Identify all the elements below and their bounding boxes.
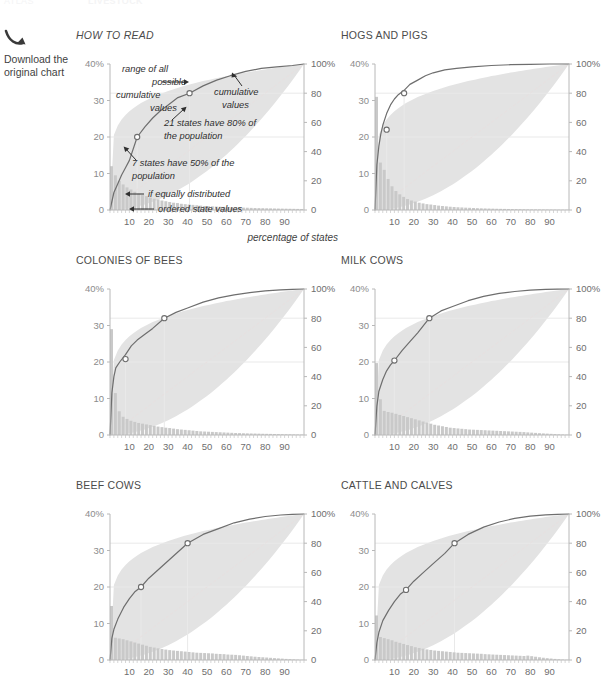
svg-text:70: 70: [506, 216, 517, 227]
chart-title: HOGS AND PIGS: [341, 28, 603, 42]
svg-text:60: 60: [576, 342, 587, 353]
svg-text:70: 70: [506, 441, 517, 452]
svg-text:10: 10: [124, 216, 135, 227]
svg-text:80: 80: [525, 216, 536, 227]
svg-text:ordered state values: ordered state values: [158, 204, 243, 214]
svg-text:90: 90: [544, 216, 555, 227]
svg-text:30: 30: [93, 95, 104, 106]
svg-text:80: 80: [260, 441, 271, 452]
chart-hogs-and-pigs: HOGS AND PIGS 40%3020100100%806040200102…: [341, 28, 603, 250]
svg-text:10: 10: [389, 216, 400, 227]
svg-text:20: 20: [576, 400, 587, 411]
chart-title: CATTLE AND CALVES: [341, 478, 603, 492]
svg-text:20: 20: [358, 131, 369, 142]
svg-text:30: 30: [93, 320, 104, 331]
svg-text:30: 30: [358, 95, 369, 106]
chart-beef-cows: BEEF COWS 40%3020100100%8060402001020304…: [76, 478, 344, 700]
svg-text:90: 90: [279, 216, 290, 227]
svg-text:population: population: [131, 171, 175, 181]
svg-text:20: 20: [576, 175, 587, 186]
svg-text:80: 80: [260, 216, 271, 227]
svg-text:80: 80: [311, 313, 322, 324]
svg-text:30: 30: [428, 666, 439, 677]
svg-text:100%: 100%: [311, 283, 336, 294]
svg-text:90: 90: [544, 666, 555, 677]
svg-text:40%: 40%: [85, 58, 105, 69]
svg-text:0: 0: [576, 429, 581, 440]
svg-text:0: 0: [99, 204, 104, 215]
chart-title: COLONIES OF BEES: [76, 253, 344, 267]
svg-text:10: 10: [93, 168, 104, 179]
plot-area: 40%3020100100%80604020010203040506070809…: [341, 42, 603, 242]
svg-text:40: 40: [311, 596, 322, 607]
svg-text:40%: 40%: [350, 283, 370, 294]
svg-text:20: 20: [93, 581, 104, 592]
svg-text:40%: 40%: [85, 508, 105, 519]
svg-text:60: 60: [311, 117, 322, 128]
svg-text:80: 80: [311, 88, 322, 99]
svg-text:40: 40: [447, 216, 458, 227]
svg-text:40%: 40%: [85, 283, 105, 294]
svg-text:0: 0: [364, 429, 369, 440]
svg-text:70: 70: [241, 666, 252, 677]
svg-text:50: 50: [202, 666, 213, 677]
plot-area: 40%3020100100%80604020010203040506070809…: [76, 267, 344, 467]
svg-text:80: 80: [525, 441, 536, 452]
svg-text:30: 30: [358, 320, 369, 331]
svg-text:0: 0: [364, 204, 369, 215]
chart-cattle-and-calves: CATTLE AND CALVES 40%3020100100%80604020…: [341, 478, 603, 700]
svg-text:60: 60: [221, 666, 232, 677]
svg-text:60: 60: [221, 441, 232, 452]
svg-text:cumulative: cumulative: [214, 87, 258, 97]
svg-text:60: 60: [311, 342, 322, 353]
svg-text:20: 20: [144, 666, 155, 677]
svg-text:40%: 40%: [350, 508, 370, 519]
svg-text:80: 80: [260, 666, 271, 677]
svg-text:30: 30: [428, 441, 439, 452]
chart-milk-cows: MILK COWS 40%3020100100%8060402001020304…: [341, 253, 603, 475]
svg-text:20: 20: [409, 216, 420, 227]
svg-text:10: 10: [358, 393, 369, 404]
svg-text:20: 20: [93, 356, 104, 367]
svg-text:50: 50: [202, 216, 213, 227]
svg-text:10: 10: [124, 441, 135, 452]
header-left-fragment: ATLAS: [4, 0, 34, 6]
download-original-chart-link[interactable]: Download the original chart: [4, 28, 70, 79]
svg-text:0: 0: [311, 204, 316, 215]
svg-text:40%: 40%: [350, 58, 370, 69]
header-center-fragment: LIVESTOCK: [88, 0, 143, 6]
svg-text:40: 40: [311, 146, 322, 157]
svg-text:range of all: range of all: [122, 64, 169, 74]
svg-text:100%: 100%: [576, 58, 601, 69]
svg-text:20: 20: [144, 441, 155, 452]
svg-text:40: 40: [182, 216, 193, 227]
svg-text:0: 0: [576, 204, 581, 215]
svg-text:20: 20: [409, 441, 420, 452]
svg-text:40: 40: [182, 666, 193, 677]
download-label: Download the original chart: [4, 53, 70, 79]
svg-text:60: 60: [311, 567, 322, 578]
chart-title: BEEF COWS: [76, 478, 344, 492]
svg-text:40: 40: [576, 371, 587, 382]
svg-text:0: 0: [364, 654, 369, 665]
svg-text:20: 20: [409, 666, 420, 677]
chart-colonies-of-bees: COLONIES OF BEES 40%3020100100%806040200…: [76, 253, 344, 475]
svg-text:30: 30: [163, 441, 174, 452]
svg-text:70: 70: [241, 216, 252, 227]
svg-text:20: 20: [576, 625, 587, 636]
svg-text:40: 40: [311, 371, 322, 382]
svg-text:60: 60: [486, 216, 497, 227]
page-root: ATLAS LIVESTOCK Download the original ch…: [0, 0, 603, 700]
svg-text:60: 60: [576, 567, 587, 578]
cut-off-header: ATLAS LIVESTOCK: [0, 0, 603, 10]
svg-text:20: 20: [358, 581, 369, 592]
svg-text:20: 20: [144, 216, 155, 227]
svg-text:values: values: [150, 103, 177, 113]
svg-text:cumulative: cumulative: [116, 90, 160, 100]
svg-text:60: 60: [486, 666, 497, 677]
svg-text:if equally distributed: if equally distributed: [148, 189, 231, 199]
svg-text:80: 80: [576, 313, 587, 324]
svg-text:10: 10: [124, 666, 135, 677]
svg-text:10: 10: [358, 168, 369, 179]
svg-text:80: 80: [525, 666, 536, 677]
